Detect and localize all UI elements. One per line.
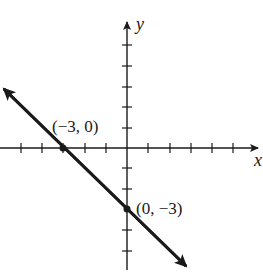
y-axis-label: y <box>134 14 144 34</box>
point1-label: (−3, 0) <box>52 117 98 136</box>
coordinate-plane: (−3, 0) (0, −3) y x <box>0 0 263 275</box>
point2-label: (0, −3) <box>136 199 182 218</box>
point-y-intercept <box>124 206 131 213</box>
x-axis-label: x <box>253 150 262 170</box>
point-x-intercept <box>60 145 67 152</box>
graph-svg: (−3, 0) (0, −3) y x <box>0 0 263 275</box>
